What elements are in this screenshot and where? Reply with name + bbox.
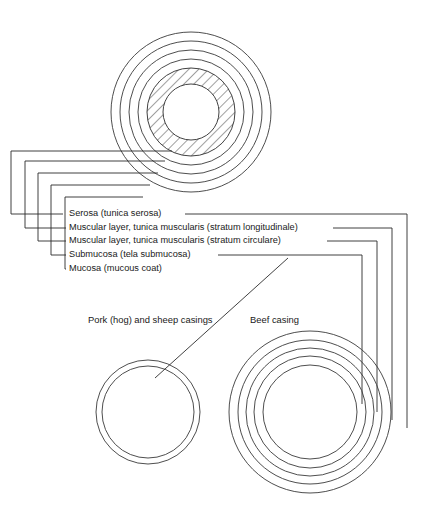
- layer-label-muscularis-longitudinal: Muscular layer, tunica muscularis (strat…: [69, 222, 298, 232]
- beef-casing-cross-section: [229, 331, 391, 493]
- layer-label-serosa: Serosa (tunica serosa): [69, 208, 161, 218]
- beef-leader-line-muscularis-longitudinal: [333, 228, 392, 420]
- layer-detail-cross-section: [100, 21, 282, 203]
- beef-leader-line-submucosa: [218, 255, 362, 404]
- caption-pork-sheep: Pork (hog) and sheep casings: [88, 314, 213, 325]
- layer-label-text-group: Serosa (tunica serosa)Muscular layer, tu…: [69, 208, 298, 273]
- pork-casing-circle-1: [96, 360, 200, 464]
- diagram-canvas: Serosa (tunica serosa)Muscular layer, tu…: [0, 0, 423, 532]
- beef-casing-circle-5: [263, 365, 357, 459]
- beef-casing-circle-2: [238, 340, 382, 484]
- mucosa-hatched-ring: [100, 21, 282, 203]
- pork-concentric-circles: [96, 360, 200, 464]
- layer-label-muscularis-circular: Muscular layer, tunica muscularis (strat…: [69, 235, 281, 245]
- diagram-svg: Serosa (tunica serosa)Muscular layer, tu…: [0, 0, 423, 532]
- beef-casing-circle-1: [229, 331, 391, 493]
- beef-casing-circle-3: [246, 348, 374, 476]
- beef-leader-line-muscularis-circular: [327, 241, 377, 412]
- layer-label-mucosa: Mucosa (mucous coat): [69, 263, 162, 273]
- layer-label-submucosa: Submucosa (tela submucosa): [69, 249, 191, 259]
- beef-concentric-circles: [229, 331, 391, 493]
- pork-casing-circle-2: [102, 366, 194, 458]
- caption-beef: Beef casing: [250, 314, 299, 325]
- beef-casing-circle-4: [254, 356, 366, 468]
- pork-sheep-casing-cross-section: [96, 360, 200, 464]
